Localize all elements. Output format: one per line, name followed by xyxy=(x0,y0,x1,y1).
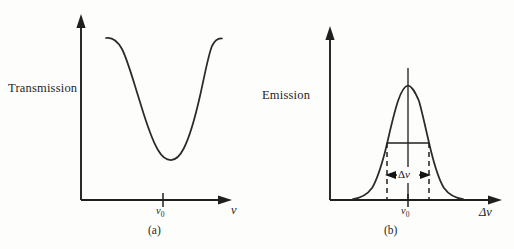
fwhm-label-nu: ν xyxy=(405,168,410,180)
nu0-tick-label: ν0 xyxy=(401,205,409,219)
figure-root: Transmission ν ν0 (a) xyxy=(0,0,514,249)
panel-a-plot xyxy=(0,0,257,249)
y-axis-label-emission: Emission xyxy=(262,88,310,103)
nu0-tick-label: ν0 xyxy=(156,205,164,219)
nu0-tick-subscript: 0 xyxy=(161,210,165,219)
x-axis-label-nu: ν xyxy=(231,203,237,218)
panel-a-caption: (a) xyxy=(148,224,161,236)
x-axis-label-delta-nu: Δν xyxy=(479,205,492,220)
y-axis-label-transmission: Transmission xyxy=(8,81,77,96)
panel-b-caption: (b) xyxy=(384,224,397,236)
transmission-dip-curve xyxy=(106,38,222,160)
panel-b-plot xyxy=(257,0,514,249)
x-axis-arrowhead-icon xyxy=(218,195,232,204)
y-axis-arrowhead-icon xyxy=(325,26,334,40)
x-axis-arrowhead-icon xyxy=(488,195,502,204)
panel-emission: Emission Δν ν0 Δν (b) xyxy=(257,0,514,249)
y-axis-arrowhead-icon xyxy=(76,14,85,28)
panel-transmission: Transmission ν ν0 (a) xyxy=(0,0,257,249)
nu0-tick-subscript: 0 xyxy=(406,210,410,219)
fwhm-label: Δν xyxy=(398,168,410,180)
